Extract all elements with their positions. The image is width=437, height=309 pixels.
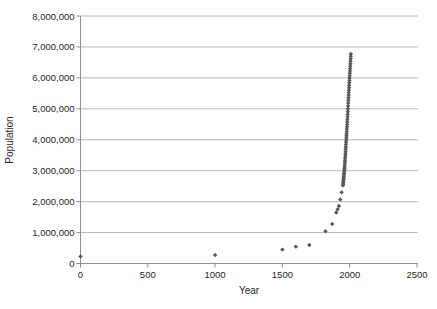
scatter-plot-canvas: 01,000,0002,000,0003,000,0004,000,0005,0… bbox=[0, 0, 437, 309]
x-axis-title: Year bbox=[239, 285, 260, 296]
data-point bbox=[339, 190, 343, 194]
data-point bbox=[294, 244, 298, 248]
y-tick-label: 3,000,000 bbox=[32, 165, 74, 176]
tick-marks bbox=[77, 16, 418, 268]
data-point bbox=[330, 222, 334, 226]
y-tick-label: 1,000,000 bbox=[32, 227, 74, 238]
y-tick-label: 8,000,000 bbox=[32, 11, 74, 22]
x-tick-label: 1000 bbox=[205, 269, 226, 280]
y-tick-label: 0 bbox=[69, 258, 74, 269]
y-tick-label: 4,000,000 bbox=[32, 134, 74, 145]
data-point bbox=[338, 197, 342, 201]
gridlines bbox=[81, 16, 419, 233]
data-points bbox=[78, 52, 353, 259]
population-scatter-chart: 01,000,0002,000,0003,000,0004,000,0005,0… bbox=[0, 0, 437, 309]
tick-labels: 01,000,0002,000,0003,000,0004,000,0005,0… bbox=[32, 11, 427, 280]
data-point bbox=[213, 253, 217, 257]
y-tick-label: 5,000,000 bbox=[32, 103, 74, 114]
data-point bbox=[307, 243, 311, 247]
x-tick-label: 0 bbox=[78, 269, 83, 280]
x-tick-label: 500 bbox=[140, 269, 156, 280]
y-tick-label: 2,000,000 bbox=[32, 196, 74, 207]
data-point bbox=[78, 254, 82, 258]
x-tick-label: 2500 bbox=[406, 269, 427, 280]
data-point bbox=[349, 52, 353, 56]
y-tick-label: 7,000,000 bbox=[32, 41, 74, 52]
y-tick-label: 6,000,000 bbox=[32, 72, 74, 83]
y-axis-title: Population bbox=[4, 116, 15, 163]
x-tick-label: 2000 bbox=[339, 269, 360, 280]
x-tick-label: 1500 bbox=[272, 269, 293, 280]
data-point bbox=[280, 247, 284, 251]
